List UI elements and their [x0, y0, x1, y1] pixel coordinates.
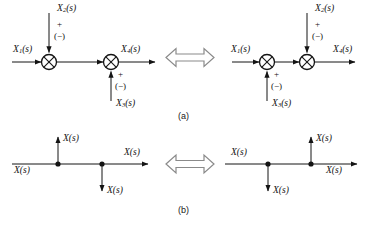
- sign-minus-j2-left: (−): [115, 82, 126, 91]
- sign-minus-j1-right: (−): [271, 82, 282, 91]
- part-a-right-diagram: [232, 13, 355, 101]
- sign-plus-j2-right: +: [315, 20, 320, 29]
- part-a-left-diagram: [12, 13, 155, 101]
- pickoff-node-2: [308, 161, 313, 166]
- double-headed-arrow-a: [166, 49, 214, 67]
- pickoff-node-2: [99, 161, 104, 166]
- pickoff-node-1: [55, 161, 60, 166]
- label-branch-up-right: X(s): [316, 134, 332, 144]
- caption-part-b: (b): [178, 205, 189, 215]
- label-input-b-left: X(s): [14, 166, 30, 176]
- label-branch-down-left: X(s): [107, 186, 123, 196]
- sign-plus-j1-right: +: [274, 70, 279, 79]
- sign-plus-j1-left: +: [57, 20, 62, 29]
- block-diagram-figure: X2(s) + (−) X1(s) X4(s) + (−) X3(s) X2(s…: [0, 0, 367, 227]
- label-output-b-right: X(s): [326, 166, 342, 176]
- label-branch-up-left: X(s): [63, 134, 79, 144]
- label-x4-output-right: X4(s): [333, 45, 352, 55]
- label-x1-input-left: X1(s): [13, 45, 32, 55]
- caption-part-a: (a): [178, 111, 189, 121]
- pickoff-node-1: [265, 161, 270, 166]
- label-output-b-left: X(s): [124, 148, 140, 158]
- label-branch-down-right: X(s): [273, 186, 289, 196]
- equivalence-arrow-part-a: [166, 49, 214, 67]
- equivalence-arrow-part-b: [166, 155, 214, 173]
- label-x2-input-left: X2(s): [57, 4, 76, 14]
- part-b-left-diagram: [12, 137, 148, 191]
- label-input-b-right: X(s): [231, 148, 247, 158]
- label-x4-output-left: X4(s): [121, 45, 140, 55]
- sign-plus-j2-left: +: [118, 70, 123, 79]
- label-x1-input-right: X1(s): [231, 45, 250, 55]
- double-headed-arrow-b: [166, 155, 214, 173]
- sign-minus-j2-right: (−): [312, 32, 323, 41]
- label-x2-input-right: X2(s): [315, 4, 334, 14]
- label-x3-input-right: X3(s): [272, 99, 291, 109]
- label-x3-input-left: X3(s): [116, 99, 135, 109]
- part-b-right-diagram: [225, 137, 357, 191]
- sign-minus-j1-left: (−): [54, 32, 65, 41]
